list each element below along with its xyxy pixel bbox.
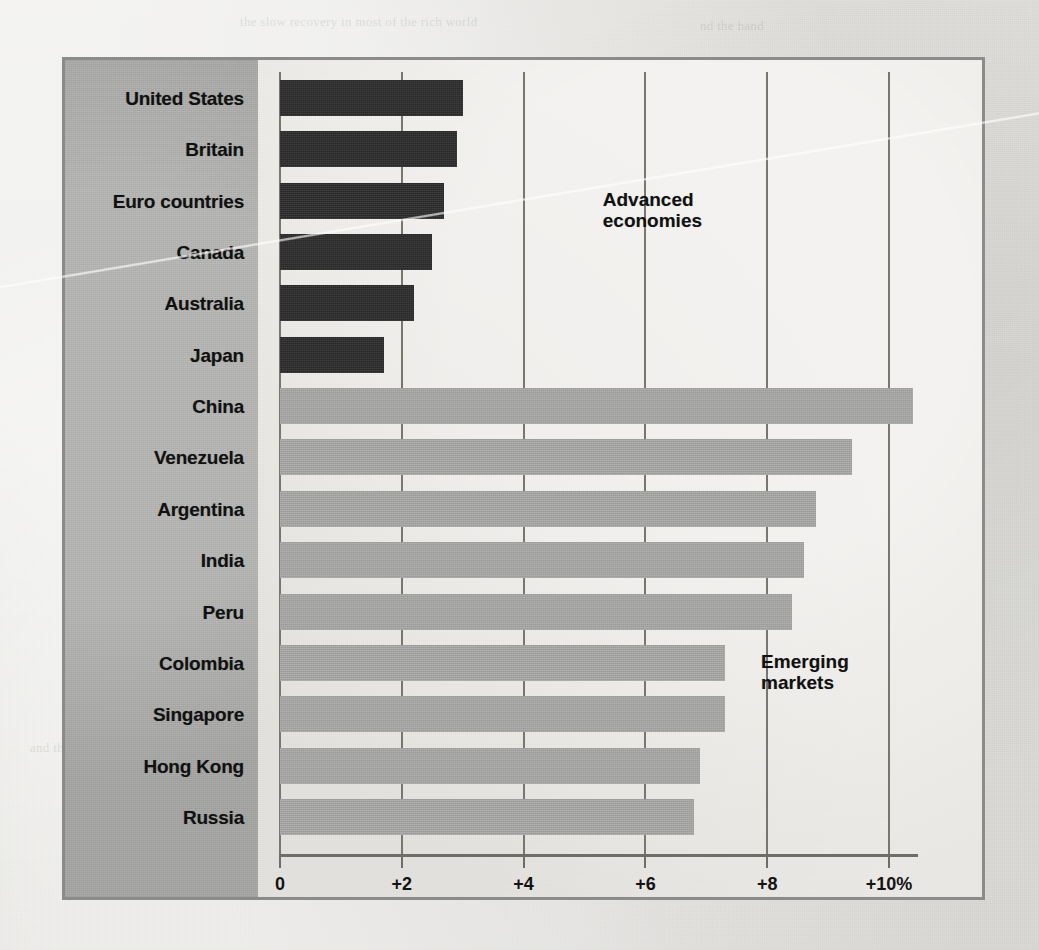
bar-singapore[interactable]	[280, 696, 725, 732]
category-label-canada: Canada	[177, 243, 244, 262]
category-label-japan: Japan	[190, 346, 244, 365]
category-label-euro-countries: Euro countries	[113, 192, 244, 211]
chart-frame: United StatesBritainEuro countriesCanada…	[62, 57, 985, 900]
bar-texture	[280, 491, 816, 527]
x-tick-label: +2	[392, 874, 413, 895]
category-label-hong-kong: Hong Kong	[143, 757, 244, 776]
bar-venezuela[interactable]	[280, 439, 852, 475]
bar-texture	[280, 388, 913, 424]
category-label-venezuela: Venezuela	[154, 448, 244, 467]
gridline-+10	[888, 72, 890, 854]
bar-texture	[280, 439, 852, 475]
bar-argentina[interactable]	[280, 491, 816, 527]
bar-britain[interactable]	[280, 131, 457, 167]
bar-hong-kong[interactable]	[280, 748, 700, 784]
ghost-text-fragment: the slow recovery in most of the rich wo…	[240, 14, 477, 30]
x-tick-label: +4	[513, 874, 534, 895]
category-label-argentina: Argentina	[157, 500, 244, 519]
category-label-australia: Australia	[164, 294, 244, 313]
bar-united-states[interactable]	[280, 80, 463, 116]
bar-texture	[280, 748, 700, 784]
x-tick-label: 0	[275, 874, 285, 895]
ghost-text-fragment: nd the hand	[700, 18, 764, 34]
plot-area: 0+2+4+6+8+10%Advanced economiesEmerging …	[258, 60, 982, 897]
x-tick-mark	[401, 856, 403, 868]
category-label-panel: United StatesBritainEuro countriesCanada…	[65, 60, 258, 897]
category-label-singapore: Singapore	[153, 705, 244, 724]
x-tick-label: +8	[757, 874, 778, 895]
bar-texture	[280, 645, 725, 681]
bar-peru[interactable]	[280, 594, 792, 630]
annotation-emerging-label: Emerging markets	[761, 651, 849, 694]
x-tick-mark	[644, 856, 646, 868]
bar-texture	[280, 542, 804, 578]
bar-india[interactable]	[280, 542, 804, 578]
category-label-peru: Peru	[203, 603, 244, 622]
bar-russia[interactable]	[280, 799, 694, 835]
bar-japan[interactable]	[280, 337, 384, 373]
bar-texture	[280, 183, 444, 219]
bar-colombia[interactable]	[280, 645, 725, 681]
bar-texture	[280, 131, 457, 167]
bar-canada[interactable]	[280, 234, 432, 270]
bar-texture	[280, 594, 792, 630]
category-label-colombia: Colombia	[159, 654, 244, 673]
category-label-united-states: United States	[125, 89, 244, 108]
x-tick-mark	[888, 856, 890, 868]
x-tick-label: +6	[635, 874, 656, 895]
bar-texture	[280, 234, 432, 270]
bar-texture	[280, 799, 694, 835]
bar-texture	[280, 337, 384, 373]
x-tick-label: +10%	[866, 874, 913, 895]
x-tick-mark	[523, 856, 525, 868]
category-label-india: India	[201, 551, 244, 570]
x-tick-mark	[766, 856, 768, 868]
category-label-britain: Britain	[185, 140, 244, 159]
x-tick-mark	[279, 856, 281, 868]
bar-texture	[280, 285, 414, 321]
annotation-advanced-label: Advanced economies	[603, 189, 702, 232]
bar-texture	[280, 696, 725, 732]
x-axis-line	[279, 854, 918, 857]
category-label-china: China	[192, 397, 244, 416]
bar-china[interactable]	[280, 388, 913, 424]
bar-euro-countries[interactable]	[280, 183, 444, 219]
bar-texture	[280, 80, 463, 116]
bar-australia[interactable]	[280, 285, 414, 321]
category-label-russia: Russia	[183, 808, 244, 827]
